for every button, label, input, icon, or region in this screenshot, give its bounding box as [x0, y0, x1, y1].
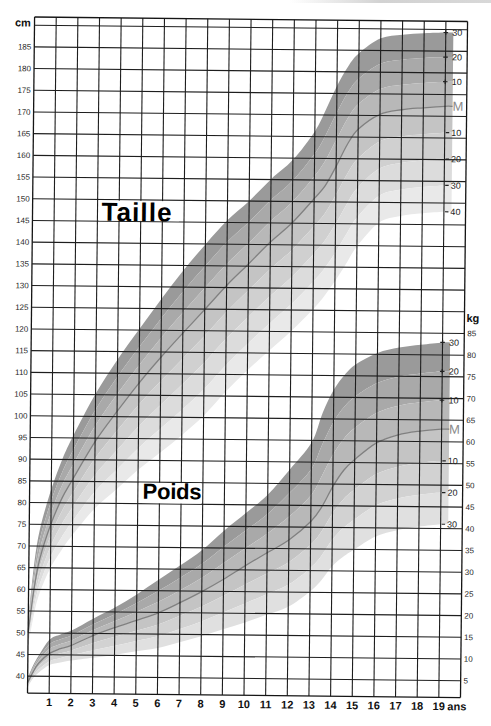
kg-tick-label: 35: [465, 546, 475, 555]
age-tick-label: 10: [238, 698, 250, 710]
poids-label-plus-10: 10: [448, 396, 458, 406]
cm-tick-label: 40: [16, 672, 26, 681]
cm-tick-label: 150: [16, 194, 30, 203]
age-tick-label: 1: [46, 696, 52, 708]
poids-label-median: M: [449, 422, 460, 437]
cm-tick-label: 50: [16, 628, 26, 637]
cm-tick-label: 155: [16, 173, 30, 182]
taille-title: Taille: [101, 197, 171, 228]
kg-tick-label: 50: [466, 481, 476, 490]
kg-tick-label: 40: [465, 525, 475, 534]
cm-tick-label: 55: [16, 607, 26, 616]
cm-tick-label: 135: [16, 259, 30, 268]
cm-tick-label: 90: [18, 455, 28, 464]
cm-tick-label: 115: [15, 346, 28, 355]
taille-label-minus-40: 40: [450, 207, 460, 217]
poids-title: Poids: [142, 479, 201, 505]
age-tick-label: 17: [389, 700, 401, 712]
cm-tick-label: 105: [14, 390, 28, 399]
kg-tick-label: 20: [464, 611, 474, 620]
kg-tick-label: 60: [466, 438, 476, 447]
poids-label-plus-20: 20: [449, 367, 459, 377]
age-tick-label: 8: [197, 698, 203, 710]
taille-label-plus-20: 20: [452, 52, 462, 62]
age-tick-label: 16: [368, 699, 380, 711]
kg-tick-label: 5: [464, 677, 469, 686]
cm-tick-label: 180: [18, 64, 32, 73]
age-tick-label: 14: [324, 699, 337, 711]
cm-tick-label: 95: [18, 433, 28, 442]
cm-tick-label: 170: [17, 108, 31, 117]
age-tick-label: 3: [89, 696, 95, 708]
cm-tick-label: 175: [17, 86, 31, 95]
poids-label-minus-30: 30: [447, 519, 457, 529]
cm-tick-label: 130: [15, 281, 29, 290]
growth-chart: Taille Poids 185180175170165160155150145…: [0, 0, 491, 726]
taille-label-plus-10: 10: [452, 77, 462, 87]
age-tick-label: 18: [411, 700, 423, 712]
cm-tick-label: 140: [16, 238, 30, 247]
age-unit-label: ans: [447, 700, 466, 712]
kg-tick-label: 80: [467, 351, 477, 360]
kg-tick-label: 55: [466, 460, 476, 469]
age-tick-label: 9: [219, 698, 225, 710]
grid-line-vertical: [71, 17, 78, 693]
poids-label-minus-10: 10: [448, 456, 458, 466]
cm-tick-label: 120: [15, 325, 29, 334]
kg-unit-label: kg: [466, 312, 479, 324]
age-tick-label: 11: [260, 698, 272, 710]
poids-label-plus-30: 30: [449, 338, 459, 348]
age-tick-label: 6: [154, 697, 160, 709]
cm-tick-label: 145: [16, 216, 30, 225]
age-tick-label: 4: [111, 697, 118, 709]
kg-tick-label: 75: [467, 373, 477, 382]
kg-tick-label: 30: [465, 568, 475, 577]
cm-tick-label: 160: [17, 151, 31, 160]
age-tick-label: 15: [346, 699, 358, 711]
kg-tick-label: 15: [464, 633, 474, 642]
taille-label-minus-30: 30: [451, 181, 461, 191]
kg-tick-label: 10: [464, 655, 474, 664]
taille-label-plus-30: 30: [452, 28, 462, 38]
age-tick-label: 2: [68, 696, 74, 708]
grid-line-vertical: [49, 17, 56, 693]
cm-tick-label: 185: [18, 43, 32, 52]
chart-frame: Taille Poids 185180175170165160155150145…: [8, 16, 483, 712]
age-tick-label: 13: [303, 699, 315, 711]
kg-tick-label: 45: [465, 503, 475, 512]
cm-tick-label: 85: [18, 477, 28, 486]
taille-label-minus-20: 20: [451, 154, 461, 164]
taille-label-median: M: [452, 99, 463, 114]
grid-line-vertical: [309, 20, 316, 696]
cm-unit-label: cm: [15, 16, 31, 28]
cm-tick-label: 100: [14, 411, 28, 420]
age-tick-label: 12: [281, 698, 293, 710]
taille-label-minus-10: 10: [451, 128, 461, 138]
kg-tick-label: 70: [467, 394, 477, 403]
kg-tick-label: 65: [466, 416, 476, 425]
kg-tick-label: 85: [467, 329, 477, 338]
cm-tick-label: 125: [15, 303, 29, 312]
cm-tick-label: 110: [15, 368, 28, 377]
cm-tick-label: 45: [16, 650, 26, 659]
kg-tick-label: 25: [465, 590, 475, 599]
grid-line-vertical: [92, 18, 99, 694]
cm-tick-label: 165: [17, 129, 31, 138]
cm-tick-label: 80: [18, 498, 28, 507]
cm-tick-label: 70: [17, 542, 27, 551]
cm-tick-label: 75: [17, 520, 27, 529]
cm-tick-label: 60: [17, 585, 27, 594]
age-tick-label: 19: [433, 700, 445, 712]
age-tick-label: 5: [133, 697, 139, 709]
cm-tick-label: 65: [17, 563, 27, 572]
age-tick-label: 7: [176, 697, 182, 709]
poids-label-minus-20: 20: [447, 488, 457, 498]
